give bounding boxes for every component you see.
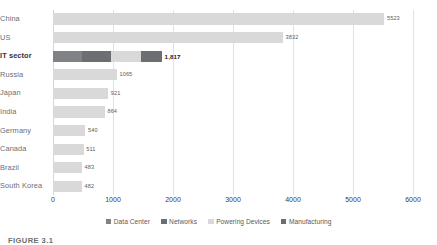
bar-row: Canada511 xyxy=(0,140,437,158)
bar-row: US3832 xyxy=(0,29,437,47)
bar xyxy=(53,162,82,173)
category-label: Russia xyxy=(0,66,47,84)
bar-segment xyxy=(53,162,82,173)
bar-value-label: 864 xyxy=(105,106,117,117)
legend-swatch-icon xyxy=(281,219,287,225)
category-label: IT sector xyxy=(0,47,47,65)
bar-segment xyxy=(82,51,111,62)
bar xyxy=(53,125,85,136)
bar-track: 540 xyxy=(53,125,413,136)
x-tick-label: 3000 xyxy=(225,196,241,203)
legend-item[interactable]: Manufacturing xyxy=(281,218,332,225)
bar xyxy=(53,181,82,192)
category-label: US xyxy=(0,29,47,47)
category-label: Canada xyxy=(0,140,47,158)
bar-segment xyxy=(53,69,117,80)
chart-legend: Data CenterNetworksPowering DevicesManuf… xyxy=(0,218,437,225)
x-tick-label: 0 xyxy=(51,196,55,203)
legend-item[interactable]: Networks xyxy=(161,218,197,225)
chart-figure: China5523US3832IT sector1,817Russia1065J… xyxy=(0,0,437,245)
bar-track: 921 xyxy=(53,88,413,99)
category-label: China xyxy=(0,10,47,28)
bar-value-label: 1065 xyxy=(117,69,132,80)
legend-label: Powering Devices xyxy=(216,218,270,225)
bar-segment xyxy=(53,32,283,43)
x-axis: 0100020003000400050006000 xyxy=(53,196,413,210)
bar-row: China5523 xyxy=(0,10,437,28)
bar-segment xyxy=(53,125,85,136)
bar-row: IT sector1,817 xyxy=(0,47,437,65)
bar-value-label: 1,817 xyxy=(162,51,181,62)
legend-swatch-icon xyxy=(208,219,214,225)
legend-label: Networks xyxy=(169,218,197,225)
bar-value-label: 540 xyxy=(85,125,97,136)
bar-rows: China5523US3832IT sector1,817Russia1065J… xyxy=(0,10,437,196)
legend-item[interactable]: Powering Devices xyxy=(208,218,270,225)
bar-value-label: 482 xyxy=(82,181,94,192)
bar-track: 3832 xyxy=(53,32,413,43)
bar-segment xyxy=(53,51,82,62)
category-label: India xyxy=(0,103,47,121)
bar-row: India864 xyxy=(0,103,437,121)
bar xyxy=(53,32,283,43)
x-tick-label: 5000 xyxy=(345,196,361,203)
bar-value-label: 511 xyxy=(84,144,96,155)
bar-track: 1,817 xyxy=(53,51,413,62)
bar-track: 511 xyxy=(53,144,413,155)
legend-swatch-icon xyxy=(106,219,112,225)
legend-item[interactable]: Data Center xyxy=(106,218,150,225)
bar xyxy=(53,69,117,80)
x-tick-label: 2000 xyxy=(165,196,181,203)
bar-value-label: 483 xyxy=(82,162,94,173)
bar-segment xyxy=(53,88,108,99)
category-label: Germany xyxy=(0,122,47,140)
bar-value-label: 3832 xyxy=(283,32,298,43)
bar xyxy=(53,106,105,117)
category-label: Brazil xyxy=(0,159,47,177)
bar-row: Russia1065 xyxy=(0,66,437,84)
bar-track: 5523 xyxy=(53,13,413,24)
legend-label: Manufacturing xyxy=(289,218,331,225)
bar xyxy=(53,13,384,24)
bar-row: Japan921 xyxy=(0,84,437,102)
bar-value-label: 921 xyxy=(108,88,120,99)
bar-track: 1065 xyxy=(53,69,413,80)
bar xyxy=(53,88,108,99)
bar xyxy=(53,51,162,62)
bar-row: South Korea482 xyxy=(0,177,437,195)
plot-area: China5523US3832IT sector1,817Russia1065J… xyxy=(0,0,437,196)
bar-track: 864 xyxy=(53,106,413,117)
bar-segment xyxy=(141,51,162,62)
bar-track: 483 xyxy=(53,162,413,173)
bar-segment xyxy=(53,106,105,117)
bar-value-label: 5523 xyxy=(384,13,399,24)
bar-track: 482 xyxy=(53,181,413,192)
x-tick-label: 6000 xyxy=(405,196,421,203)
figure-caption: FIGURE 3.1 xyxy=(8,236,53,245)
x-tick-label: 1000 xyxy=(105,196,121,203)
category-label: South Korea xyxy=(0,177,47,195)
legend-label: Data Center xyxy=(114,218,150,225)
legend-swatch-icon xyxy=(161,219,167,225)
x-tick-label: 4000 xyxy=(285,196,301,203)
bar-segment xyxy=(53,144,84,155)
bar-segment xyxy=(53,13,384,24)
bar-row: Germany540 xyxy=(0,122,437,140)
bar xyxy=(53,144,84,155)
bar-segment xyxy=(53,181,82,192)
bar-row: Brazil483 xyxy=(0,159,437,177)
bar-segment xyxy=(111,51,141,62)
category-label: Japan xyxy=(0,84,47,102)
